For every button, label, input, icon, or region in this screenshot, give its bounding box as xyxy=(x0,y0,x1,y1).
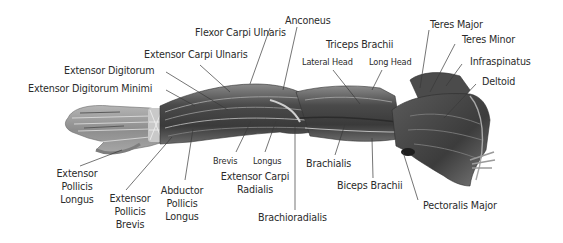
label-lateral-head: Lateral Head xyxy=(302,56,353,69)
label-pectoralis-major: Pectoralis Major xyxy=(423,199,497,212)
label-brachioradialis: Brachioradialis xyxy=(258,211,327,224)
label-abductor-pollicis-longus: Abductor Pollicis Longus xyxy=(152,184,212,223)
label-extensor-carpi-radialis-brevis: Brevis xyxy=(213,155,237,168)
label-biceps-brachii: Biceps Brachii xyxy=(337,179,403,192)
label-extensor-carpi-ulnaris: Extensor Carpi Ulnaris xyxy=(144,48,248,61)
label-teres-major: Teres Major xyxy=(430,18,483,31)
label-extensor-pollicis-brevis: Extensor Pollicis Brevis xyxy=(100,192,160,231)
upper-arm xyxy=(296,86,402,141)
label-triceps-brachii: Triceps Brachii xyxy=(326,38,393,51)
label-brachialis: Brachialis xyxy=(306,157,351,170)
muscle-diagram: Anconeus Flexor Carpi Ulnaris Extensor C… xyxy=(0,0,563,243)
label-extensor-digitorum-minimi: Extensor Digitorum Minimi xyxy=(28,82,152,95)
label-extensor-carpi-radialis-longus: Longus xyxy=(253,155,281,168)
shoulder xyxy=(392,73,495,186)
label-extensor-pollicis-longus: Extensor Pollicis Longus xyxy=(47,167,107,206)
label-long-head: Long Head xyxy=(369,56,411,69)
label-flexor-carpi-ulnaris: Flexor Carpi Ulnaris xyxy=(195,26,286,39)
label-extensor-carpi-radialis: Extensor Carpi Radialis xyxy=(210,170,300,196)
forearm xyxy=(160,84,312,144)
label-deltoid: Deltoid xyxy=(482,75,515,88)
label-extensor-digitorum: Extensor Digitorum xyxy=(64,64,154,77)
label-teres-minor: Teres Minor xyxy=(462,33,515,46)
label-anconeus: Anconeus xyxy=(285,14,331,27)
label-infraspinatus: Infraspinatus xyxy=(470,55,531,68)
